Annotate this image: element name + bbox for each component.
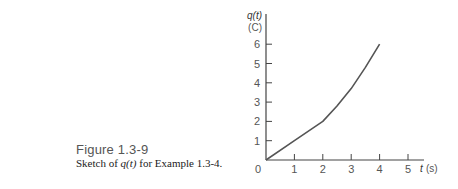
y-tick-label: 3 (254, 96, 260, 108)
x-tick-label: 0 (255, 163, 261, 175)
x-axis-label-unit: (s) (426, 163, 438, 174)
x-axis-label-var: t (420, 163, 424, 174)
figure-number: Figure 1.3-9 (76, 143, 222, 157)
y-tick-label: 1 (254, 135, 260, 147)
y-tick-label: 4 (254, 77, 260, 89)
chart: 123456 012345 q(t) (C) t (s) (0, 0, 458, 189)
figure-description: Sketch of q(t) for Example 1.3-4. (76, 157, 222, 170)
q-curve (266, 44, 380, 160)
y-axis-label-var: q(t) (247, 10, 262, 21)
x-tick-label: 4 (377, 163, 383, 175)
y-axis-label-unit: (C) (248, 22, 262, 33)
x-tick-label: 1 (291, 163, 297, 175)
caption-var: q(t) (121, 157, 137, 169)
x-tick-label: 3 (348, 163, 354, 175)
y-ticks: 123456 (254, 38, 272, 147)
x-tick-label: 2 (320, 163, 326, 175)
caption-prefix: Sketch of (76, 157, 121, 169)
figure-caption: Figure 1.3-9 Sketch of q(t) for Example … (76, 143, 222, 170)
caption-suffix: for Example 1.3-4. (137, 157, 223, 169)
y-tick-label: 2 (254, 115, 260, 127)
x-tick-label: 5 (405, 163, 411, 175)
y-tick-label: 6 (254, 38, 260, 50)
y-tick-label: 5 (254, 58, 260, 70)
x-ticks: 012345 (255, 154, 411, 175)
